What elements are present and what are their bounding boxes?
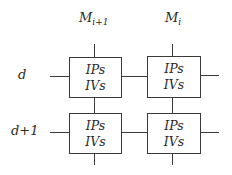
connector-mid-col2 (172, 97, 173, 113)
connector-left-row2 (50, 132, 69, 133)
connector-left-row1 (50, 76, 69, 77)
connector-bottom-col2 (172, 153, 173, 165)
connector-between-row2 (121, 132, 147, 133)
cell-line2: IVs (148, 134, 200, 149)
column-label-m-i: Mi (165, 10, 181, 27)
cell-line1: IPs (148, 61, 200, 76)
connector-mid-col1 (94, 97, 95, 113)
cell-line2: IVs (70, 78, 121, 93)
connector-top-col2 (172, 44, 173, 56)
row-label-d: d (18, 67, 26, 82)
cell-line1: IPs (148, 118, 200, 133)
cell-line2: IVs (148, 77, 200, 92)
cell-box-d1-mi: IPs IVs (147, 113, 201, 154)
connector-between-row1 (121, 76, 147, 77)
column-label-subscript: i+1 (92, 17, 108, 27)
column-label-base: M (79, 10, 92, 25)
column-label-subscript: i (178, 17, 181, 27)
cell-line2: IVs (70, 134, 121, 149)
connector-bottom-col1 (94, 153, 95, 165)
row-label-d-plus-1: d+1 (11, 123, 39, 138)
column-label-m-i-plus-1: Mi+1 (79, 10, 108, 27)
connector-right-row1 (200, 75, 219, 76)
column-label-base: M (165, 10, 178, 25)
connector-top-col1 (94, 44, 95, 57)
cell-box-d-mi1: IPs IVs (69, 57, 122, 98)
cell-line1: IPs (70, 62, 121, 77)
grid-diagram: Mi+1 Mi d d+1 IPs IVs IPs IVs IPs IVs IP… (0, 0, 232, 175)
cell-box-d1-mi1: IPs IVs (69, 113, 122, 154)
connector-right-row2 (200, 132, 219, 133)
cell-line1: IPs (70, 118, 121, 133)
cell-box-d-mi: IPs IVs (147, 56, 201, 98)
